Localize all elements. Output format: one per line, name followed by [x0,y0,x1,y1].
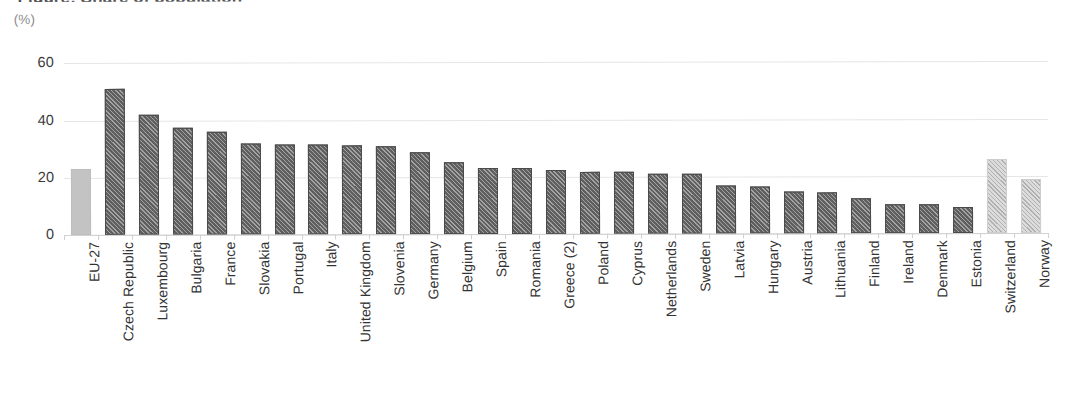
bar [139,115,159,235]
bar [71,169,91,235]
x-tick-mark [573,234,574,239]
bar-series [64,47,1048,235]
x-label-slovenia: Slovenia [391,241,407,296]
x-label-germany: Germany [425,241,441,299]
bar [478,168,498,234]
bar [1021,179,1041,233]
bar [376,147,396,235]
x-label-united-kingdom: United Kingdom [357,241,373,342]
x-tick-mark [471,234,472,239]
bar [953,207,973,233]
bar [750,186,770,234]
x-tick-mark [811,233,812,238]
bar [207,132,227,235]
x-tick-mark [166,235,167,240]
x-tick-mark [132,235,133,240]
x-tick-mark [437,234,438,239]
x-tick-mark [64,235,65,240]
bar [919,205,939,234]
x-tick-mark [1048,233,1049,238]
bar [716,186,736,234]
bar [987,159,1007,233]
x-tick-mark [709,234,710,239]
bar-slot [782,47,804,233]
bar-slot [375,48,397,234]
x-label-eu-27: EU-27 [86,242,102,282]
bar [784,191,804,233]
x-tick-mark [403,234,404,239]
x-label-italy: Italy [324,241,340,267]
x-tick-mark [946,233,947,238]
bar-slot [1020,47,1042,233]
bar-slot [511,48,533,234]
bar-slot [545,48,567,234]
bar-slot [816,47,838,233]
x-label-sweden: Sweden [697,241,713,292]
x-tick-mark [234,235,235,240]
bar-slot [579,48,601,234]
x-label-austria: Austria [799,240,815,284]
x-label-lithuania: Lithuania [833,240,849,298]
bar [614,172,634,234]
x-tick-mark [1014,233,1015,238]
bar [817,192,837,233]
bar-slot [477,48,499,234]
x-tick-mark [505,234,506,239]
x-label-norway: Norway [1036,240,1052,288]
bar-slot [409,48,431,234]
y-tick-label-0: 0 [14,226,54,242]
plot-area [64,47,1048,235]
x-tick-mark [844,233,845,238]
x-tick-mark [980,233,981,238]
bar-slot [884,47,906,233]
x-axis-category-labels: EU-27Czech RepublicLuxembourgBulgariaFra… [64,240,1048,392]
bar-chart: Figure: Share of population (%) 0204060 … [0,0,1066,394]
x-tick-mark [675,234,676,239]
x-tick-mark [268,235,269,240]
bar-slot [341,48,363,234]
bar-slot [952,47,974,233]
x-tick-mark [200,235,201,240]
bar [682,174,702,234]
bar-slot [613,48,635,234]
x-label-greece-2: Greece (2) [561,241,577,309]
x-tick-mark [878,233,879,238]
bar [512,168,532,234]
bar-slot [205,49,227,235]
bar-slot [646,48,668,234]
x-tick-mark [336,234,337,239]
y-tick-label-60: 60 [14,54,54,70]
x-label-finland: Finland [866,240,882,287]
bar-slot [70,49,92,235]
y-axis-unit-label: (%) [14,12,36,27]
bar-slot [273,48,295,234]
bar-slot [138,49,160,235]
x-tick-mark [369,234,370,239]
bar-slot [714,48,736,234]
bar [851,198,871,233]
bar [885,204,905,233]
x-label-slovakia: Slovakia [256,242,272,296]
bar-slot [171,49,193,235]
x-label-portugal: Portugal [290,241,306,294]
bar [580,171,600,233]
bar-slot [748,48,770,234]
bar-slot [850,47,872,233]
bar-slot [307,48,329,234]
x-label-cyprus: Cyprus [629,241,645,286]
bar [308,145,328,235]
x-label-ireland: Ireland [900,240,916,284]
x-label-spain: Spain [493,241,509,277]
bar [648,174,668,234]
x-label-romania: Romania [527,241,543,298]
x-tick-mark [777,233,778,238]
chart-title-cropped: Figure: Share of population [18,0,243,2]
x-label-poland: Poland [595,241,611,285]
y-tick-label-40: 40 [14,112,54,128]
x-label-czech-republic: Czech Republic [120,242,136,341]
x-label-bulgaria: Bulgaria [188,242,204,294]
y-tick-label-20: 20 [14,169,54,185]
bar [342,145,362,234]
x-label-hungary: Hungary [765,240,781,294]
x-label-switzerland: Switzerland [1002,240,1018,314]
